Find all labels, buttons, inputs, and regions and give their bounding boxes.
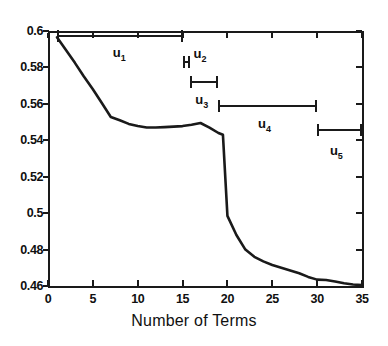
chart-figure: u1u2u3u4u5 0.460.480.50.520.540.560.580.… (0, 0, 388, 346)
x-tick-label-30: 30 (311, 292, 324, 306)
x-tick-label-0: 0 (45, 292, 52, 306)
x-tick-label-5: 5 (90, 292, 97, 306)
x-axis-tick-labels: 05101520253035 (0, 0, 388, 346)
x-tick-label-15: 15 (176, 292, 189, 306)
x-axis-title: Number of Terms (0, 312, 388, 330)
x-tick-label-25: 25 (266, 292, 279, 306)
x-tick-label-10: 10 (131, 292, 144, 306)
x-tick-label-20: 20 (221, 292, 234, 306)
x-tick-label-35: 35 (355, 292, 368, 306)
